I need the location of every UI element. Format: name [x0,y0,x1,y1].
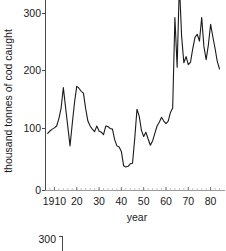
x-tick-label-70: 70 [182,195,194,207]
y-axis-title-group: thousand tonnes of cod caught [2,29,14,173]
y-tick-label-0: 0 [35,184,41,196]
x-tick-label-20: 20 [71,195,83,207]
secondary-panel-partial: 300 [38,233,62,251]
cod-catch-figure: thousand tonnes of cod caught 300 200 10… [0,0,225,251]
x-tick-label-40: 40 [116,195,128,207]
x-tick-label-80: 80 [205,195,217,207]
x-tick-label-60: 60 [160,195,172,207]
x-tick-label-50: 50 [138,195,150,207]
x-axis-ticks [50,187,220,191]
data-line-cod-catch [48,0,220,167]
y-axis-line-group [42,0,46,191]
x-axis-tick-labels: 191020304050607080 [43,195,217,207]
y-tick-label-300: 300 [23,7,41,19]
y-axis-title: thousand tonnes of cod caught [2,29,14,173]
y-axis-tick-labels: 300 200 100 0 [23,7,41,196]
x-tick-label-30: 30 [93,195,105,207]
x-axis-title: year [127,211,148,223]
secondary-y-tick-label-300: 300 [38,233,56,245]
x-tick-label-1910: 1910 [43,195,67,207]
y-tick-label-100: 100 [23,122,41,134]
y-tick-label-200: 200 [23,64,41,76]
x-axis-line-group [46,187,226,191]
